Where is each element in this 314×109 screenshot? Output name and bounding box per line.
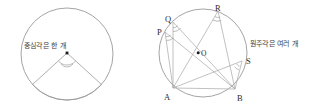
chord-r-a (173, 11, 218, 88)
point-label-s: S (246, 56, 251, 66)
point-label-q: Q (165, 14, 171, 24)
angle-mark-p-inner (166, 35, 171, 37)
geometry-figure-svg: O P Q R S A B (0, 0, 314, 109)
point-label-r: R (215, 3, 221, 13)
inscribed-angle-caption: 원주각은 여러 개 (250, 38, 298, 48)
center-point-label: O (201, 49, 207, 58)
central-angle-vertex-dot (66, 52, 69, 55)
center-point-dot (197, 51, 200, 54)
angle-mark-s-outer (235, 67, 239, 70)
angle-mark-s-inner (237, 64, 240, 66)
central-angle-caption: 중심각은 한 개 (24, 40, 66, 50)
chord-a-b (173, 88, 235, 89)
point-label-b: B (237, 93, 243, 103)
geometry-figure-container: O P Q R S A B 중심각은 한 개 원주각은 여러 개 (0, 0, 314, 109)
central-angle-ray-right (67, 53, 102, 85)
inscribed-angle-group: O P Q R S A B (157, 3, 251, 103)
central-angle-ray-left (33, 53, 68, 85)
point-label-p: P (157, 27, 162, 37)
central-angle-subtended-arc (33, 85, 102, 101)
point-label-a: A (164, 92, 171, 102)
angle-mark-p-outer (166, 38, 173, 40)
central-angle-group (21, 8, 113, 100)
